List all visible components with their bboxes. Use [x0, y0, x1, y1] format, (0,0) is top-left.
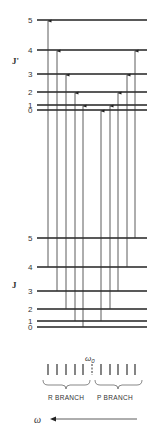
upper-level-label: 0	[28, 106, 33, 115]
upper-level-label: 2	[28, 88, 33, 97]
omega-zero-label: ω0	[85, 354, 95, 364]
upper-levels: 543210	[28, 16, 147, 115]
upper-level-label: 3	[28, 70, 33, 79]
r-branch-label: R BRANCH	[48, 394, 84, 401]
upper-level-label: 5	[28, 16, 33, 25]
transitions	[48, 21, 135, 327]
p-branch-brace	[95, 380, 142, 389]
upper-level-label: 4	[28, 46, 33, 55]
frequency-axis-label: ω	[34, 414, 41, 425]
r-branch-brace	[43, 380, 90, 389]
p-branch-label: P BRANCH	[97, 394, 133, 401]
lower-level-label: 3	[28, 287, 33, 296]
arrowhead-icon	[50, 417, 56, 422]
upper-state-label: J'	[12, 56, 19, 66]
spectrum: ω0 R BRANCH P BRANCH ω	[34, 354, 142, 425]
lower-levels: 543210	[28, 234, 147, 332]
lower-level-label: 4	[28, 263, 33, 272]
lower-level-label: 5	[28, 234, 33, 243]
lower-level-label: 2	[28, 305, 33, 314]
lower-state-label: J	[12, 280, 17, 290]
lower-level-label: 0	[28, 323, 33, 332]
energy-level-diagram: 543210 543210 J' J ω0 R BRANCH P BRANCH …	[0, 0, 160, 435]
